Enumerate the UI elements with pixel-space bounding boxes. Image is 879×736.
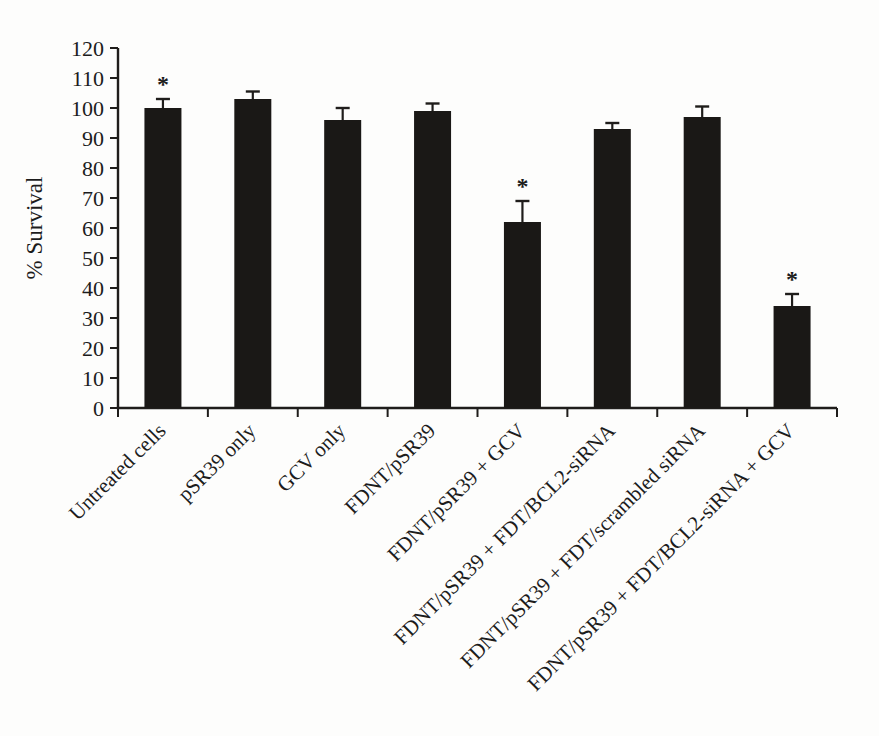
y-axis-tick-label: 10: [82, 366, 104, 391]
y-axis-tick-label: 80: [82, 156, 104, 181]
significance-marker: *: [786, 266, 798, 292]
bar: [684, 117, 721, 408]
bar: [324, 120, 361, 408]
significance-marker: *: [516, 173, 528, 199]
y-axis-tick-label: 110: [72, 66, 104, 91]
y-axis-tick-label: 100: [71, 96, 104, 121]
bar: [504, 222, 541, 408]
x-axis-category-label: GCV only: [272, 418, 351, 497]
y-axis-tick-label: 120: [71, 36, 104, 61]
bar: [414, 111, 451, 408]
y-axis-title: % Survival: [22, 177, 47, 280]
y-axis-tick-label: 60: [82, 216, 104, 241]
x-axis-category-label: FDNT/pSR39: [340, 419, 440, 519]
bar: [594, 129, 631, 408]
y-axis-tick-label: 70: [82, 186, 104, 211]
y-axis-tick-label: 20: [82, 336, 104, 361]
y-axis-tick-label: 30: [82, 306, 104, 331]
bar: [144, 108, 181, 408]
bar: [234, 99, 271, 408]
significance-marker: *: [157, 71, 169, 97]
y-axis-tick-label: 40: [82, 276, 104, 301]
survival-bar-chart-figure: 0102030405060708090100110120% Survival*U…: [0, 0, 879, 736]
y-axis-tick-label: 90: [82, 126, 104, 151]
survival-bar-chart: 0102030405060708090100110120% Survival*U…: [0, 0, 879, 736]
y-axis-tick-label: 0: [93, 396, 104, 421]
x-axis-category-label: Untreated cells: [64, 419, 170, 525]
x-axis-category-label: pSR39 only: [173, 418, 261, 506]
bar: [774, 306, 811, 408]
y-axis-tick-label: 50: [82, 246, 104, 271]
